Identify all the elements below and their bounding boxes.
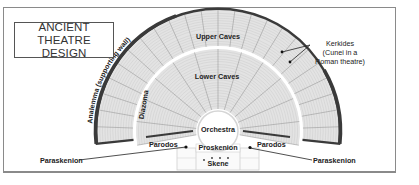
label-paraskenion-left: Paraskenion <box>40 156 83 165</box>
title-box: ANCIENT THEATRE DESIGN <box>14 22 114 58</box>
label-kerkides-line2: (Cunei in a <box>323 48 358 57</box>
label-parodos-right: Parodos <box>257 140 286 149</box>
label-skene: Skene <box>207 159 228 168</box>
title-line-2: DESIGN <box>15 47 113 60</box>
label-paraskenion-right: Paraskenion <box>313 156 356 165</box>
title-line-1: ANCIENT THEATRE <box>15 21 113 47</box>
label-kerkides: Kerkides <box>326 39 354 48</box>
label-lower-caves: Lower Caves <box>195 72 239 81</box>
label-proskenion: Proskenion <box>198 143 237 152</box>
label-parodos-left: Parodos <box>149 140 178 149</box>
label-kerkides-line3: Roman theatre) <box>315 57 365 66</box>
label-upper-caves: Upper Caves <box>196 32 240 41</box>
label-orchestra: Orchestra <box>201 125 236 134</box>
